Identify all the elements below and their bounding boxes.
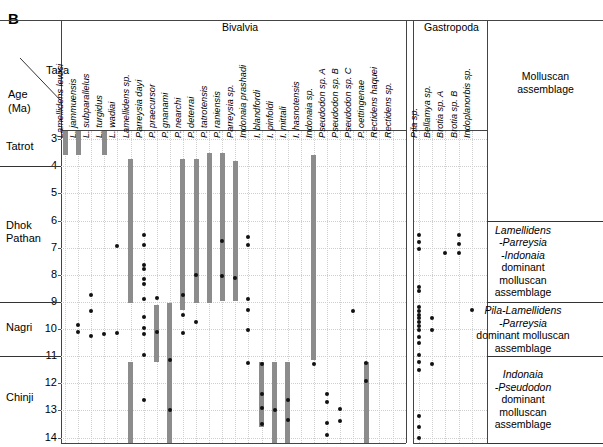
occurrence-dot-bv-7-0 [155, 296, 159, 300]
range-bar-bv-9-0 [180, 159, 185, 310]
grid-hline [61, 139, 406, 140]
occurrence-dot-bv-9-2 [181, 331, 185, 335]
occurrence-dot-ga-2-0 [443, 251, 447, 255]
header-separator [0, 20, 603, 21]
range-bar-bv-1-0 [76, 131, 81, 155]
occurrence-dot-ga-1-0 [430, 316, 434, 320]
range-bar-bv-8-0 [167, 303, 172, 443]
occurrence-dot-bv-21-1 [338, 419, 342, 423]
assemblage-label-pila-lamellidens-parreysia: Pila-Lamellidens-Parreysiadominant mollu… [448, 304, 598, 354]
assemblage-line: dominant molluscan [448, 329, 598, 342]
assemblage-line: Pila-Lamellidens [448, 304, 598, 317]
occurrence-dot-bv-6-11 [142, 398, 146, 402]
assemblage-line: -Parreysia [448, 236, 598, 249]
age-tick-12: 12 [39, 376, 57, 388]
taxon-label-bivalvia-5: Lamellidens sp. [121, 74, 131, 138]
taxon-label-bivalvia-25: Rectidens sp. [383, 82, 393, 138]
assemblage-separator-bottom [487, 443, 603, 444]
grid-vline [248, 131, 249, 443]
formation-boundary-3 [0, 356, 61, 357]
range-bar-bv-5-1 [128, 362, 133, 443]
formation-name-nagri: Nagri [6, 321, 32, 333]
occurrence-dot-bv-9-0 [181, 293, 185, 297]
occurrence-dot-bv-6-7 [142, 315, 146, 319]
grid-vline [393, 131, 394, 443]
grid-vline [157, 131, 158, 443]
occurrence-dot-bv-14-0 [246, 235, 250, 239]
occurrence-dot-ga-0-15 [417, 360, 421, 364]
occurrence-dot-bv-20-0 [325, 392, 329, 396]
assemblage-line: Lamellidens [448, 224, 598, 237]
age-tick-7: 7 [39, 241, 57, 253]
range-bar-bv-16-0 [272, 362, 277, 443]
age-tick-13: 13 [39, 403, 57, 415]
occurrence-dot-bv-6-10 [142, 353, 146, 357]
taxon-label-bivalvia-20: Pseudodon sp. A [317, 68, 327, 138]
occurrence-dot-ga-0-14 [417, 353, 421, 357]
occurrence-dot-bv-14-4 [246, 328, 250, 332]
occurrence-dot-bv-4-1 [115, 331, 119, 335]
range-bar-bv-23-0 [364, 362, 369, 443]
occurrence-dot-bv-15-3 [260, 422, 264, 426]
group-header-bivalvia: Bivalvia [150, 21, 330, 33]
occurrence-dot-bv-2-2 [89, 334, 93, 338]
plot-bottom-frame [61, 443, 406, 444]
occurrence-dot-ga-0-0 [417, 233, 421, 237]
bivalvia-range-plot [61, 131, 406, 443]
occurrence-dot-bv-6-5 [142, 282, 146, 286]
assemblage-line: assemblage [448, 286, 598, 299]
range-bar-bv-19-0 [311, 155, 316, 360]
taxon-label-bivalvia-21: Pseudodon sp. B [330, 68, 340, 138]
occurrence-dot-bv-6-8 [142, 326, 146, 330]
occurrence-dot-ga-1-2 [430, 362, 434, 366]
grid-vline [144, 131, 145, 443]
range-bar-bv-0-0 [63, 131, 68, 155]
occurrence-dot-bv-22-0 [351, 309, 355, 313]
occurrence-dot-ga-0-11 [417, 328, 421, 332]
age-tick-6: 6 [39, 214, 57, 226]
occurrence-dot-ga-0-19 [417, 436, 421, 440]
grid-hline [414, 356, 487, 357]
occurrence-dot-ga-0-1 [417, 240, 421, 244]
grid-hline [61, 329, 406, 330]
occurrence-dot-ga-0-17 [417, 414, 421, 418]
occurrence-dot-ga-0-4 [417, 289, 421, 293]
occurrence-dot-bv-7-1 [155, 330, 159, 334]
grid-vline [65, 131, 66, 443]
assemblage-line: dominant [448, 261, 598, 274]
grid-vline [432, 131, 433, 443]
gastropoda-bottom-frame [413, 443, 488, 444]
grid-hline [414, 438, 487, 439]
taxon-label-bivalvia-1: L. jammuensis [68, 79, 78, 138]
occurrence-dot-bv-15-2 [260, 406, 264, 410]
range-bar-bv-11-0 [207, 153, 212, 304]
occurrence-dot-bv-17-0 [286, 398, 290, 402]
taxon-label-bivalvia-24: Rectidens haquei [369, 67, 379, 138]
assemblage-line: -Pseudodon [448, 381, 598, 394]
taxon-label-bivalvia-22: Pseudodon sp. C [343, 68, 353, 139]
occurrence-dot-ga-0-16 [417, 368, 421, 372]
age-tick-11: 11 [39, 349, 57, 361]
grid-hline [61, 383, 406, 384]
age-tick-5: 5 [39, 186, 57, 198]
age-axis-label-line2: (Ma) [8, 102, 31, 114]
occurrence-dot-bv-6-3 [142, 267, 146, 271]
grid-hline [414, 139, 487, 140]
taxon-label-bivalvia-23: P. oettingenae [356, 80, 366, 138]
occurrence-dot-bv-20-1 [325, 400, 329, 404]
occurrence-dot-ga-1-1 [430, 328, 434, 332]
assemblage-label-indonaia-pseudodon: Indonaia-Pseudodondominantmolluscanassem… [448, 368, 598, 431]
occurrence-dot-bv-15-1 [260, 392, 264, 396]
assemblage-separator-1 [487, 302, 603, 303]
range-bar-bv-12-0 [220, 153, 225, 301]
formation-name-dhok-pathan: Dhok [6, 219, 32, 231]
assemblage-line: dominant [448, 393, 598, 406]
occurrence-dot-bv-10-1 [194, 320, 198, 324]
occurrence-dot-bv-10-0 [194, 273, 198, 277]
taxon-label-bivalvia-2: L. subparallelus [81, 74, 91, 138]
grid-hline [61, 410, 406, 411]
range-bar-bv-17-0 [285, 362, 290, 443]
grid-hline [414, 302, 487, 303]
formation-name-dhok-pathan: Pathan [6, 232, 41, 244]
taxon-label-bivalvia-6: Parreysia dayi [134, 80, 144, 138]
